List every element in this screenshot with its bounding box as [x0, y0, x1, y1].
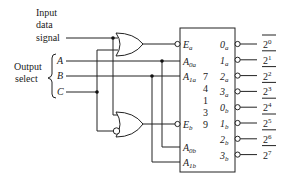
select-b-branch-wire — [152, 76, 180, 162]
output-inverter-bubble — [235, 105, 240, 110]
part-digit: 1 — [203, 95, 208, 106]
enable-b-bubble — [175, 121, 180, 126]
part-digit: 7 — [203, 71, 208, 82]
select-brace — [48, 54, 56, 98]
output-select-line2: select — [15, 73, 38, 84]
output-signal-label: 22 — [263, 70, 272, 82]
select-b-label: B — [57, 70, 63, 81]
output-inverter-bubble — [235, 57, 240, 62]
part-digit: 9 — [203, 119, 208, 130]
select-a-branch-wire — [162, 61, 180, 147]
select-a-label: A — [56, 55, 64, 66]
enable-a-bubble — [175, 41, 180, 46]
output-inverter-bubble — [235, 89, 240, 94]
output-signal-label: 27 — [263, 149, 272, 161]
output-signal-label: 26 — [263, 133, 272, 145]
input-label-line1: Input — [36, 7, 57, 18]
junction-a — [160, 59, 164, 63]
select-c-up-wire — [97, 50, 118, 92]
wires — [66, 38, 180, 162]
junction-data — [111, 36, 115, 40]
output-inverter-bubble — [235, 73, 240, 78]
output-select-line1: Output — [14, 61, 42, 72]
output-inverter-bubble — [235, 120, 240, 125]
output-inverter-bubble — [235, 152, 240, 157]
part-digit: 4 — [203, 83, 208, 94]
select-c-down-wire — [97, 92, 113, 131]
junction-b — [150, 74, 154, 78]
or-gate-b — [116, 112, 143, 137]
output-select-label: Output select — [14, 61, 42, 84]
input-data-signal-label: Input data signal — [36, 7, 60, 43]
output-signal-label: 21 — [263, 54, 272, 66]
select-c-label: C — [57, 86, 64, 97]
input-label-line2: data — [36, 19, 53, 30]
output-signal-label: 25 — [263, 117, 272, 129]
output-signal-label: 24 — [263, 101, 272, 113]
or-gate-a — [116, 33, 143, 56]
demultiplexer-schematic: Input data signal Output select A B C — [0, 0, 292, 182]
output-signal-label: 20 — [263, 38, 272, 50]
junction-c — [95, 90, 99, 94]
output-signal-label: 23 — [263, 85, 272, 97]
part-number: 7 4 1 3 9 — [203, 71, 208, 130]
output-inverter-bubble — [235, 136, 240, 141]
output-inverter-bubble — [235, 41, 240, 46]
part-digit: 3 — [203, 107, 208, 118]
inverter-bubble-c — [113, 128, 119, 134]
input-label-line3: signal — [36, 32, 60, 43]
